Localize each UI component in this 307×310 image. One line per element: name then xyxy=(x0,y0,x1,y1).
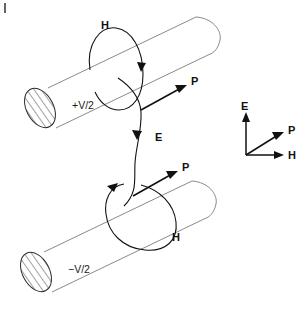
poynting-vector-lower-shaft xyxy=(133,174,172,196)
lower-conductor: −V/2 xyxy=(14,181,216,300)
h-field-loop-lower xyxy=(106,183,177,250)
poynting-vector-upper xyxy=(141,85,187,110)
lower-conductor-end-cap xyxy=(14,246,61,300)
legend-h-arrowhead xyxy=(274,151,284,159)
poynting-vector-upper-arrowhead xyxy=(175,85,187,93)
p-label-lower: P xyxy=(182,161,189,173)
upper-conductor: +V/2 xyxy=(18,17,220,136)
legend-p-axis-shaft xyxy=(246,135,278,155)
legend-vector-triad: E P H xyxy=(241,100,296,161)
legend-p-arrowhead xyxy=(272,132,284,140)
field-diagram-svg: +V/2 H P E xyxy=(0,0,307,310)
legend-h-label: H xyxy=(288,149,296,161)
legend-e-label: E xyxy=(241,100,248,112)
poynting-vector-upper-shaft xyxy=(141,88,181,110)
e-label-center: E xyxy=(155,131,162,143)
h-label-upper: H xyxy=(101,19,109,31)
h-field-arrowhead-upper xyxy=(137,62,146,72)
p-label-upper: P xyxy=(191,75,198,87)
upper-conductor-bottom-edge xyxy=(56,55,208,128)
poynting-vector-lower-arrowhead xyxy=(166,171,178,179)
figure-root: +V/2 H P E xyxy=(0,0,307,310)
lower-conductor-bottom-edge xyxy=(52,219,204,292)
poynting-vector-lower xyxy=(133,171,178,196)
upper-conductor-potential-label: +V/2 xyxy=(72,99,94,111)
legend-e-arrowhead xyxy=(242,112,250,122)
lower-conductor-potential-label: −V/2 xyxy=(68,263,90,275)
upper-conductor-end-cap xyxy=(18,82,65,136)
lower-conductor-far-cap xyxy=(192,181,216,219)
h-label-lower: H xyxy=(172,231,180,243)
upper-conductor-far-cap xyxy=(196,17,220,55)
upper-conductor-top-edge xyxy=(48,17,196,88)
legend-p-label: P xyxy=(288,124,295,136)
lower-conductor-top-edge xyxy=(44,181,192,252)
e-field-arrowhead xyxy=(132,130,142,140)
h-field-arrowhead-lower xyxy=(107,183,118,192)
